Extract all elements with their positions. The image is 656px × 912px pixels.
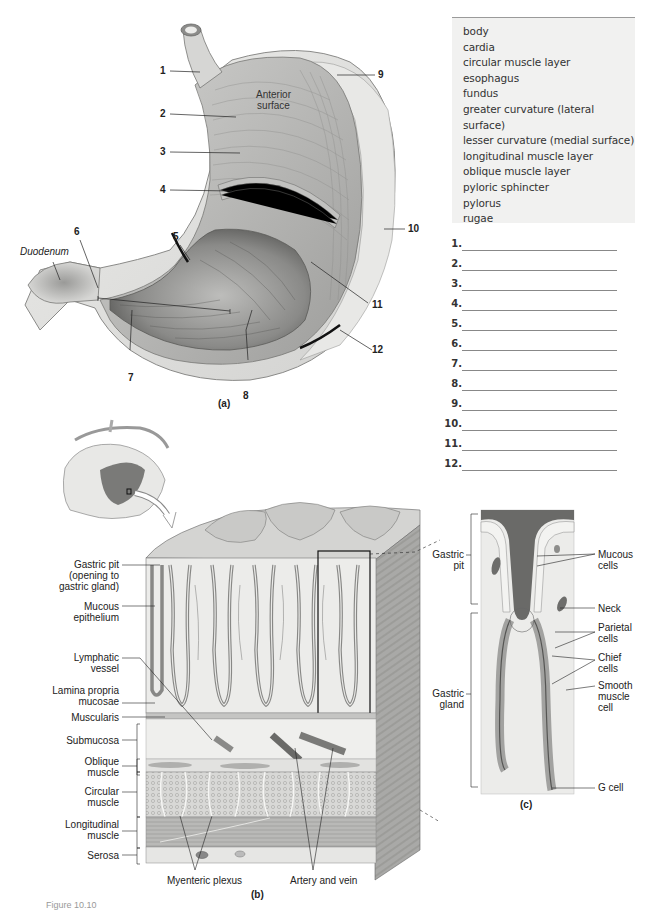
gastric-gland-illustration (0, 0, 656, 912)
c-label-g-cell: G cell (598, 782, 624, 793)
panel-label-c: (c) (520, 799, 532, 810)
c-label-parietal-cells: Parietal cells (598, 622, 632, 644)
c-label-mucous-cells: Mucous cells (598, 549, 633, 571)
c-label-gastric-gland: Gastric gland (432, 688, 464, 710)
c-label-smooth-muscle-cell: Smooth muscle cell (598, 680, 632, 713)
c-label-gastric-pit: Gastric pit (432, 549, 464, 571)
c-label-chief-cells: Chief cells (598, 652, 621, 674)
figure-caption: Figure 10.10 (46, 900, 97, 910)
c-label-neck: Neck (598, 603, 621, 614)
